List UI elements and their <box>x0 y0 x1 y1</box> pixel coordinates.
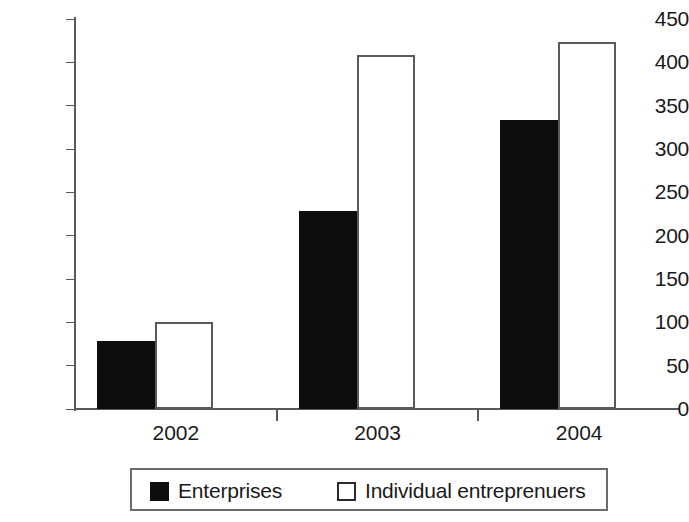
filled-square-icon <box>150 482 169 501</box>
y-axis-tick <box>66 279 75 280</box>
y-axis-tick <box>66 365 75 366</box>
x-axis-label-2003: 2003 <box>277 421 479 445</box>
bar-2004-enterprises <box>500 120 558 409</box>
bar-2003-individual <box>357 55 415 409</box>
x-axis-label-2004: 2004 <box>478 421 680 445</box>
bar-2003-enterprises <box>299 211 357 409</box>
bar-2004-individual <box>558 42 616 409</box>
y-axis-tick <box>66 19 75 20</box>
bar-2002-enterprises <box>97 341 155 409</box>
y-axis-tick <box>66 149 75 150</box>
chart-legend: EnterprisesIndividual entreprenuers <box>130 468 608 511</box>
y-axis-tick <box>66 409 75 410</box>
plot-area <box>75 19 680 409</box>
x-axis-tick <box>276 410 278 421</box>
x-axis-label-2002: 2002 <box>75 421 277 445</box>
y-axis-tick <box>66 192 75 193</box>
legend-label: Enterprises <box>178 480 282 502</box>
legend-item-individual: Individual entreprenuers <box>337 479 586 503</box>
outline-square-icon <box>337 482 356 501</box>
x-axis-tick <box>477 410 479 421</box>
y-axis-tick <box>66 235 75 236</box>
bar-chart: 050100150200250300350400450 200220032004… <box>0 0 689 522</box>
bar-2002-individual <box>155 322 213 409</box>
y-axis-tick <box>66 105 75 106</box>
y-axis-tick <box>66 62 75 63</box>
legend-item-enterprises: Enterprises <box>150 479 282 503</box>
legend-label: Individual entreprenuers <box>365 480 586 502</box>
y-axis-tick <box>66 322 75 323</box>
